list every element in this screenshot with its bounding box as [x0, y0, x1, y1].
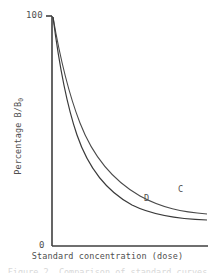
curve-label-c: C [178, 185, 183, 194]
figure-container: 100 0 Percentage B/B0 Standard concentra… [0, 0, 215, 273]
curve-c-path [53, 17, 207, 214]
x-axis-title: Standard concentration (dose) [0, 252, 215, 261]
y-axis-title-text: Percentage B/B [13, 102, 23, 175]
y-axis-title: Percentage B/B0 [14, 76, 25, 196]
plot-canvas [0, 0, 215, 273]
y-axis-tick-label-0: 0 [39, 241, 45, 250]
figure-caption-clipped: Figure 2. Comparison of standard curves [0, 268, 215, 273]
y-axis-tick-label-100: 100 [26, 11, 43, 20]
y-axis-title-subscript: 0 [17, 98, 25, 102]
curve-label-d: D [144, 194, 149, 203]
